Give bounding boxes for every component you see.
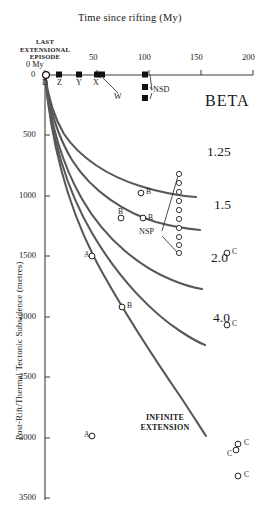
axis-datum-squares [56,72,148,102]
nsp-point [176,198,181,203]
point-b-3 [140,215,146,221]
x-tick-150: 150 [190,52,203,62]
point-b-1 [138,190,144,196]
point-b-4 [119,304,125,310]
y-axis-ticks [45,75,50,498]
y-tick-1000: 1000 [19,190,36,200]
axis-marker-label-d: D [42,78,48,87]
point-label-c-3: C [244,438,249,447]
point-label-a-2: A [84,430,89,439]
beta-label-2-0: 2.0 [211,250,228,266]
marker-x2 [99,72,105,78]
curve-infinite-extension [45,75,206,436]
y-tick-3000: 3000 [19,432,36,442]
x-tick-50: 50 [89,52,98,62]
point-label-a-1: A [84,250,89,259]
nsp-point [176,250,181,255]
infinite-extension-line-1: INFINITE [125,413,205,423]
y-tick-1500: 1500 [19,250,36,260]
point-c-4 [233,447,239,453]
marker-nsd-3 [142,95,148,101]
leader-w [103,78,118,93]
nsp-point [176,171,181,176]
nsp-point [176,242,181,247]
point-label-c-2: C [232,319,237,328]
y-tick-2000: 2000 [19,311,36,321]
y-tick-0: 0 [31,69,35,79]
nsp-point [176,180,181,185]
nsp-marker-group [176,171,181,255]
infinite-extension-label: INFINITE EXTENSION [125,413,205,432]
point-a-1 [89,253,95,259]
subsidence-chart-figure: Time since rifting (My) LAST EXTENSIONAL… [0,0,280,512]
point-label-b-1: B [146,187,151,196]
leader-nsp-bottom [162,236,177,252]
point-label-b-2: B [118,207,123,216]
y-tick-2500: 2500 [19,371,36,381]
point-label-b-3: B [148,213,153,222]
y-tick-500: 500 [23,129,36,139]
nsp-point [176,189,181,194]
point-label-c-4: C [227,449,232,458]
point-a-2 [89,433,95,439]
marker-nsd-2 [142,84,148,90]
x-tick-200: 200 [242,52,255,62]
nsp-point [176,207,181,212]
axis-marker-label-x: X [93,78,99,87]
beta-label-1-5: 1.5 [214,197,231,213]
axis-marker-label-z: Z [57,78,62,87]
point-label-c-1: C [232,247,237,256]
nsp-point [176,216,181,221]
leader-nsd-3 [150,93,152,99]
point-c-5 [235,473,241,479]
x-tick-100: 100 [138,52,151,62]
point-c-3 [235,441,241,447]
subsidence-curves [45,75,206,436]
nsd-label: NSD [153,85,169,94]
axis-marker-label-w: W [114,92,122,101]
nsp-point [176,234,181,239]
leader-nsp-top [162,176,178,231]
nsp-point [176,225,181,230]
point-label-b-4: B [127,301,132,310]
nsp-label: NSP [139,227,154,236]
beta-label-4-0: 4.0 [213,310,230,326]
marker-nsd-1 [142,72,148,78]
infinite-extension-line-2: EXTENSION [125,423,205,433]
data-point-markers [89,190,241,479]
y-tick-3500: 3500 [19,492,36,502]
point-label-c-5: C [244,470,249,479]
beta-label-1-25: 1.25 [207,144,231,160]
plot-canvas [0,0,280,512]
marker-y [76,72,82,78]
marker-z [56,72,62,78]
axis-marker-label-y: Y [76,78,82,87]
